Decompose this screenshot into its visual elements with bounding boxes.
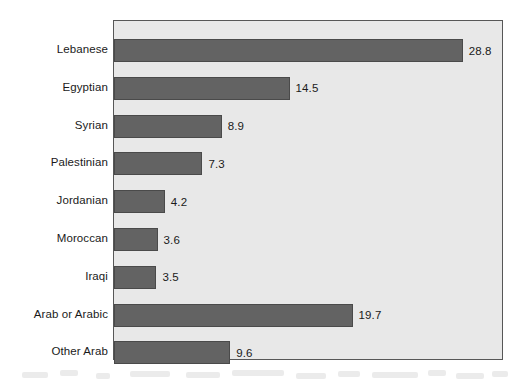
bar-value-label: 14.5 xyxy=(296,82,319,94)
scan-smudge xyxy=(186,372,220,378)
bar-row: 14.5 xyxy=(114,77,504,100)
bar-row: 8.9 xyxy=(114,115,504,138)
bar-egyptian xyxy=(114,77,290,100)
bar-value-label: 9.6 xyxy=(236,347,252,359)
scan-smudge xyxy=(232,370,284,376)
scan-smudge xyxy=(60,370,78,376)
category-label-moroccan: Moroccan xyxy=(57,227,108,250)
scan-smudge xyxy=(296,373,326,379)
category-label-arab-or-arabic: Arab or Arabic xyxy=(34,303,108,326)
category-label-other-arab: Other Arab xyxy=(51,340,108,363)
scan-smudge xyxy=(338,371,360,377)
bar-value-label: 7.3 xyxy=(208,158,224,170)
bar-value-label: 3.5 xyxy=(162,271,178,283)
bar-row: 3.6 xyxy=(114,228,504,251)
bar-row: 9.6 xyxy=(114,341,504,364)
bar-value-label: 19.7 xyxy=(359,309,382,321)
scan-smudge xyxy=(96,373,110,379)
scan-smudge xyxy=(130,371,170,377)
bar-row: 28.8 xyxy=(114,39,504,62)
scan-smudge xyxy=(428,370,446,376)
category-label-jordanian: Jordanian xyxy=(57,189,108,212)
scan-smudge xyxy=(22,372,48,378)
bar-arab-or-arabic xyxy=(114,304,353,327)
bar-value-label: 3.6 xyxy=(164,234,180,246)
bar-jordanian xyxy=(114,190,165,213)
bar-lebanese xyxy=(114,39,463,62)
bar-value-label: 4.2 xyxy=(171,196,187,208)
bar-palestinian xyxy=(114,152,202,175)
scan-smudge xyxy=(492,371,508,377)
category-label-egyptian: Egyptian xyxy=(62,76,108,99)
bar-syrian xyxy=(114,115,222,138)
bar-iraqi xyxy=(114,266,156,289)
bar-row: 3.5 xyxy=(114,266,504,289)
category-label-syrian: Syrian xyxy=(75,114,108,137)
bars-layer: 28.814.58.97.34.23.63.519.79.6 xyxy=(114,21,502,359)
category-label-lebanese: Lebanese xyxy=(57,38,108,61)
plot-area: 28.814.58.97.34.23.63.519.79.6 xyxy=(113,20,503,360)
scan-artifacts xyxy=(0,364,522,386)
category-label-palestinian: Palestinian xyxy=(51,151,108,174)
bar-row: 4.2 xyxy=(114,190,504,213)
bar-chart-figure: LebaneseEgyptianSyrianPalestinianJordani… xyxy=(0,0,522,386)
category-axis-labels: LebaneseEgyptianSyrianPalestinianJordani… xyxy=(0,20,108,360)
bar-value-label: 28.8 xyxy=(469,45,492,57)
category-label-iraqi: Iraqi xyxy=(85,265,108,288)
bar-row: 7.3 xyxy=(114,152,504,175)
scan-smudge xyxy=(372,372,418,378)
bar-moroccan xyxy=(114,228,158,251)
bar-row: 19.7 xyxy=(114,304,504,327)
scan-smudge xyxy=(456,373,484,379)
bar-value-label: 8.9 xyxy=(228,120,244,132)
bar-other-arab xyxy=(114,341,230,364)
